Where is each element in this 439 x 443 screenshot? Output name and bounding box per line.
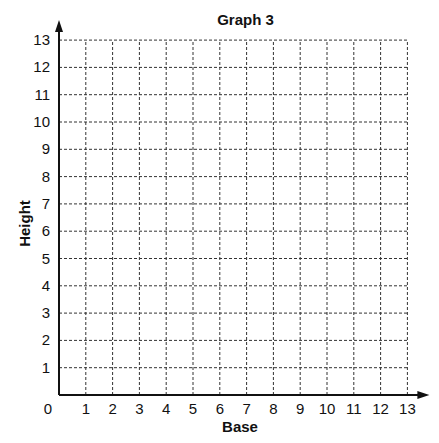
origin-label: 0 [44, 400, 52, 417]
x-tick-label: 5 [189, 400, 197, 417]
y-axis-arrow-icon [55, 20, 63, 32]
y-tick-label: 7 [42, 195, 50, 212]
x-tick-label: 4 [162, 400, 170, 417]
x-tick-label: 7 [242, 400, 250, 417]
y-tick-label: 2 [42, 331, 50, 348]
x-tick-label: 13 [399, 400, 416, 417]
y-tick-label: 10 [33, 113, 50, 130]
y-tick-label: 4 [42, 277, 50, 294]
y-tick-label: 11 [34, 86, 50, 103]
y-tick-label: 8 [42, 168, 50, 185]
x-tick-label: 8 [269, 400, 277, 417]
plot-area: 12345678910111213123456789101112130 [0, 0, 439, 443]
y-tick-label: 12 [33, 58, 50, 75]
x-tick-label: 11 [346, 400, 362, 417]
x-tick-label: 3 [135, 400, 143, 417]
x-tick-label: 6 [216, 400, 224, 417]
x-tick-label: 12 [372, 400, 389, 417]
y-tick-label: 5 [42, 250, 50, 267]
y-tick-label: 9 [42, 140, 50, 157]
x-tick-label: 9 [296, 400, 304, 417]
x-tick-label: 1 [82, 400, 90, 417]
y-tick-label: 13 [33, 31, 50, 48]
x-tick-label: 2 [108, 400, 116, 417]
x-tick-label: 10 [319, 400, 336, 417]
y-tick-label: 1 [42, 359, 50, 376]
x-axis-arrow-icon [417, 391, 429, 399]
y-tick-label: 6 [42, 222, 50, 239]
y-tick-label: 3 [42, 304, 50, 321]
